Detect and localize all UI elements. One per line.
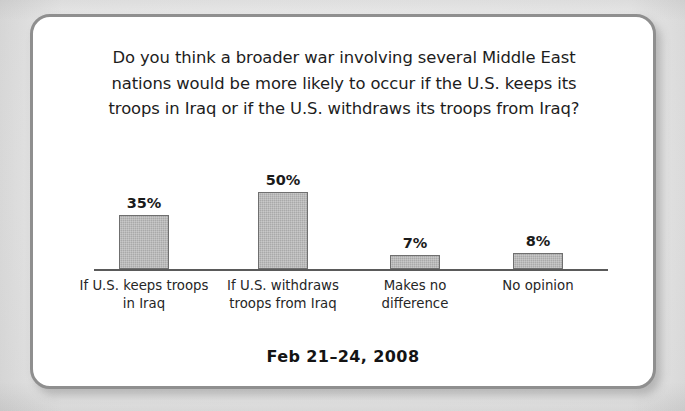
bar-no-opinion: 8% [513,253,563,269]
bar-value-withdraws-troops: 50% [266,172,301,188]
bar-label-no-opinion: No opinion [458,277,618,295]
scanned-page-background: Do you think a broader war involving sev… [0,0,685,411]
bar-wrap: 50% [233,147,333,269]
bar-value-keeps-troops: 35% [127,195,162,211]
question-line-3: troops in Iraq or if the U.S. withdraws … [55,96,633,122]
bar-keeps-troops: 35% [119,215,169,269]
bar-label-line-1: If U.S. keeps troops [64,277,224,295]
bar-withdraws-troops: 50% [258,192,308,269]
survey-date: Feb 21–24, 2008 [33,347,653,366]
bar-wrap: 7% [365,147,465,269]
bar-group-makes-no-difference: 7% Makes no difference [365,147,465,317]
bar-chart: 35% If U.S. keeps troops in Iraq 50% If … [33,147,653,317]
bar-group-withdraws-troops: 50% If U.S. withdraws troops from Iraq [233,147,333,317]
question-line-2: nations would be more likely to occur if… [55,71,633,97]
bar-wrap: 8% [488,147,588,269]
question-line-1: Do you think a broader war involving sev… [55,45,633,71]
page-title: Do you think a broader war involving sev… [55,45,633,122]
bar-value-no-opinion: 8% [526,233,551,249]
bar-wrap: 35% [94,147,194,269]
bar-value-makes-no-difference: 7% [403,235,428,251]
bar-group-keeps-troops: 35% If U.S. keeps troops in Iraq [94,147,194,317]
bar-label-line-1: No opinion [458,277,618,295]
poll-card: Do you think a broader war involving sev… [30,14,656,389]
bar-makes-no-difference: 7% [390,255,440,269]
bar-label-line-2: difference [335,295,495,313]
bar-label-keeps-troops: If U.S. keeps troops in Iraq [64,277,224,312]
bar-group-no-opinion: 8% No opinion [488,147,588,317]
bar-label-line-2: in Iraq [64,295,224,313]
